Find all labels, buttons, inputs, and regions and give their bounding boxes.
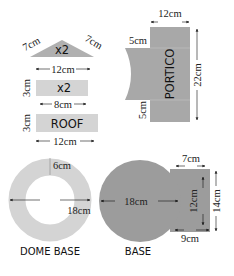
base-tab-top: 7cm: [182, 153, 200, 164]
roof-width: 12cm: [53, 136, 76, 147]
base-tab-outer-height: 14cm: [211, 189, 222, 212]
roof-label: ROOF: [51, 117, 84, 131]
base-tab-bottom: 9cm: [181, 233, 199, 244]
portico-tab-bottom: 5cm: [137, 101, 148, 119]
roof-triangle-piece: x2 7cm 7cm 12cm: [21, 33, 105, 75]
base-tab-inner-height: 12cm: [188, 189, 199, 212]
roof-triangle-count: x2: [55, 43, 69, 57]
template-diagram: x2 7cm 7cm 12cm x2 3cm 8cm ROOF 3cm 12cm…: [0, 0, 234, 276]
dome-base-diameter: 18cm: [67, 205, 90, 216]
roof-piece: ROOF 3cm 12cm: [21, 114, 98, 147]
dome-base-ring-width: 6cm: [53, 160, 71, 171]
portico-top-width: 12cm: [158, 8, 181, 19]
roof-small-width: 8cm: [54, 99, 72, 110]
roof-small-piece: x2 3cm 8cm: [21, 79, 88, 110]
dome-base-label: DOME BASE: [20, 246, 80, 257]
roof-height: 3cm: [21, 114, 32, 132]
base-label: BASE: [125, 246, 151, 257]
portico-piece: PORTICO 12cm 5cm 5cm 22cm: [125, 8, 203, 122]
portico-height: 22cm: [192, 63, 203, 86]
base-piece: 18cm 7cm 12cm 14cm 9cm BASE: [99, 153, 222, 257]
roof-triangle-right-side: 7cm: [83, 33, 104, 52]
roof-small-count: x2: [57, 81, 71, 95]
dome-base-piece: 6cm 18cm DOME BASE: [10, 158, 91, 257]
base-diameter: 18cm: [124, 196, 147, 207]
portico-label: PORTICO: [163, 49, 177, 100]
roof-small-height: 3cm: [21, 79, 32, 97]
roof-triangle-left-side: 7cm: [21, 35, 42, 53]
portico-tab-top: 5cm: [129, 35, 147, 46]
roof-triangle-base: 12cm: [51, 64, 74, 75]
